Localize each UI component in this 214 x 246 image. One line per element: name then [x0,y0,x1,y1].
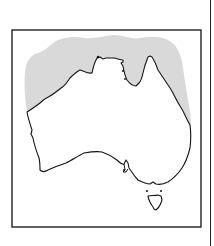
island-flinders [160,190,162,192]
australia-map [0,0,214,246]
island-kangaroo [123,169,125,171]
island-mornington [124,78,126,80]
island-groote [122,70,124,72]
island-melville [97,56,99,58]
page-edge-rule [210,0,211,246]
island-king [146,190,148,192]
